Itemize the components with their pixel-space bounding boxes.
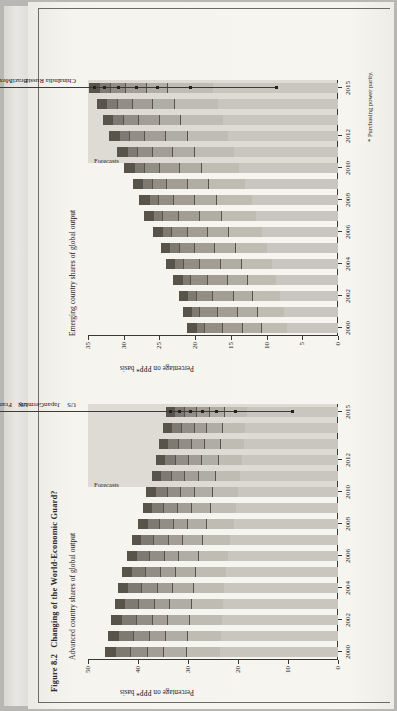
leader-dot-uk (201, 410, 204, 413)
figure-number: Figure 8.2 (50, 654, 59, 692)
bar-segment-japan (220, 439, 244, 449)
bar-segment-mexico (204, 323, 221, 333)
bar-segment-brazil (199, 259, 220, 269)
bar-segment-russia (165, 131, 186, 141)
bar-segment-indonesia (153, 211, 162, 221)
y-tick (288, 660, 289, 664)
stacked-bar (117, 147, 338, 157)
forecast-label-emerging: Forecasts (94, 157, 119, 164)
bar-segment-india (194, 147, 234, 157)
y-tick-label: 20 (234, 666, 242, 673)
x-tick-label: 2010 (344, 161, 352, 175)
stacked-bar (118, 583, 338, 593)
bar-segment-us (244, 439, 339, 449)
bar-segment-france (145, 567, 160, 577)
x-tick (338, 411, 342, 412)
bar-segment-turkey (133, 179, 142, 189)
y-tick (138, 660, 139, 664)
bar-segment-canada (132, 535, 141, 545)
bar-segment-uk (160, 567, 175, 577)
bar-segment-mexico (144, 163, 159, 173)
y-tick (302, 336, 303, 340)
bar-segment-uk (152, 615, 168, 625)
bar-segment-france (175, 455, 188, 465)
x-tick-label: 2006 (344, 225, 352, 239)
bar-segment-germany (194, 487, 212, 497)
leader-dot-canada (169, 410, 172, 413)
bar-segment-germany (178, 551, 198, 561)
stacked-bar (146, 487, 338, 497)
x-tick (338, 619, 342, 620)
bar-segment-france (149, 551, 164, 561)
stacked-bar (183, 307, 338, 317)
x-tick-label: 2000 (344, 645, 352, 659)
bar-segment-japan (222, 423, 245, 433)
bar-segment-italy (115, 647, 131, 657)
bar-segment-indonesia (169, 243, 178, 253)
bar-segment-china (234, 147, 338, 157)
bar-segment-canada (152, 471, 160, 481)
bar-segment-us (236, 503, 338, 513)
bar-segment-france (138, 599, 154, 609)
stacked-bar (163, 423, 339, 433)
stacked-bar (143, 503, 339, 513)
stacked-bar (124, 163, 338, 173)
y-tick-label: 30 (184, 666, 192, 673)
x-tick (338, 491, 342, 492)
bar-segment-brazil (166, 179, 187, 189)
bar-segment-turkey (103, 115, 112, 125)
y-tick-label: 20 (191, 342, 199, 349)
stacked-bar (132, 535, 339, 545)
bar-segment-italy (164, 455, 175, 465)
bar-segment-uk (194, 423, 207, 433)
y-tick-label: 25 (155, 342, 163, 349)
bar-segment-us (230, 535, 338, 545)
bar-segment-mexico (179, 243, 195, 253)
x-tick (338, 263, 342, 264)
bar-segment-japan (193, 583, 225, 593)
bar-segment-italy (171, 423, 182, 433)
stacked-bar (89, 83, 338, 93)
bar-segment-russia (199, 211, 221, 221)
bar-segment-russia (159, 115, 180, 125)
bar-segment-italy (131, 567, 145, 577)
bar-segment-uk (191, 439, 204, 449)
bar-segment-mexico (171, 227, 187, 237)
bar-segment-china (239, 163, 338, 173)
bar-segment-uk (168, 535, 183, 545)
bar-segment-mexico (199, 307, 216, 317)
bar-segment-japan (189, 615, 222, 625)
bar-segment-russia (233, 291, 252, 301)
bar-segment-canada (105, 647, 115, 657)
leader-dot-germany (215, 410, 218, 413)
x-tick (338, 327, 342, 328)
x-tick (338, 135, 342, 136)
stacked-bar (138, 519, 338, 529)
bar-segment-indonesia (187, 291, 196, 301)
bar-segment-indonesia (119, 131, 130, 141)
y-tick (231, 336, 232, 340)
bar-segment-uk (154, 599, 170, 609)
bar-segment-turkey (153, 227, 162, 237)
bar-segment-brazil (173, 195, 194, 205)
x-tick-label: 2002 (344, 613, 352, 627)
bar-segment-russia (152, 99, 173, 109)
stacked-bar (105, 647, 338, 657)
plot-area-emerging: Forecasts0510152025303520002002200420062… (88, 80, 338, 336)
figure-caption: Figure 8.2Changing of the World-Economic… (50, 490, 59, 692)
bar-segment-italy (140, 535, 153, 545)
x-tick (338, 587, 342, 588)
bar-segment-china (272, 259, 338, 269)
stacked-bar (127, 551, 338, 561)
bar-segment-indonesia (162, 227, 171, 237)
stacked-bar (97, 99, 338, 109)
stacked-bar (109, 131, 338, 141)
bar-segment-india (228, 227, 262, 237)
bar-segment-indonesia (127, 147, 137, 157)
stacked-bar (108, 631, 338, 641)
bar-segment-indonesia (134, 163, 144, 173)
bar-segment-china (262, 227, 338, 237)
bar-segment-france (141, 583, 157, 593)
bar-segment-indonesia (149, 195, 158, 205)
stacked-bar (122, 567, 338, 577)
